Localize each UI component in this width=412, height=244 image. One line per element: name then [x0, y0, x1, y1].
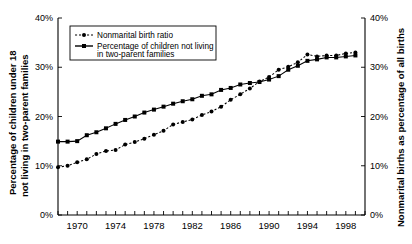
- data-point: [181, 99, 185, 103]
- data-point: [305, 59, 309, 63]
- data-point: [133, 140, 137, 144]
- right-tick-label: 30%: [370, 62, 388, 72]
- legend-label-0: Nonmarital birth ratio: [97, 31, 173, 40]
- data-point: [85, 133, 89, 137]
- data-point: [152, 133, 156, 137]
- data-point: [56, 165, 60, 169]
- data-point: [162, 105, 166, 109]
- data-point: [56, 140, 60, 144]
- data-point: [315, 57, 319, 61]
- data-point: [238, 82, 242, 86]
- right-tick-label: 10%: [370, 161, 388, 171]
- x-axis-ticks: 19701974197819821986199019941998: [58, 211, 365, 231]
- series-line-1: [58, 55, 355, 141]
- data-point: [66, 164, 70, 168]
- data-point: [267, 78, 271, 82]
- left-tick-label: 20%: [35, 112, 53, 122]
- right-tick-label: 40%: [370, 13, 388, 23]
- data-point: [305, 52, 309, 56]
- data-point: [104, 149, 108, 153]
- left-tick-label: 10%: [35, 161, 53, 171]
- data-point: [85, 157, 89, 161]
- data-point: [219, 105, 223, 109]
- series-line-0: [58, 52, 355, 167]
- x-tick-label: 1970: [67, 220, 88, 231]
- data-point: [257, 80, 261, 84]
- data-point: [200, 94, 204, 98]
- data-point: [114, 148, 118, 152]
- data-point: [248, 81, 252, 85]
- data-point: [181, 120, 185, 124]
- data-point: [248, 86, 252, 90]
- x-tick-label: 1994: [297, 220, 318, 231]
- data-point: [94, 152, 98, 156]
- data-point: [190, 117, 194, 121]
- data-point: [75, 139, 79, 143]
- line-chart: Percentage of children under 18 not livi…: [0, 0, 412, 244]
- left-axis-title-line1: Percentage of children under 18: [7, 50, 18, 195]
- data-point: [200, 113, 204, 117]
- x-tick-label: 1990: [258, 220, 279, 231]
- data-point: [133, 115, 137, 119]
- series-layer: [56, 50, 357, 169]
- data-point: [286, 68, 290, 72]
- left-axis-title-line2: not living in two-parent families: [19, 54, 30, 197]
- data-point: [171, 102, 175, 106]
- x-tick-label: 1974: [105, 220, 126, 231]
- data-point: [94, 130, 98, 134]
- data-point: [190, 97, 194, 101]
- data-point: [344, 54, 348, 58]
- data-point: [66, 140, 70, 144]
- x-tick-label: 1998: [335, 220, 356, 231]
- data-point: [152, 108, 156, 112]
- left-tick-label: 40%: [35, 13, 53, 23]
- chart-container: Percentage of children under 18 not livi…: [0, 0, 412, 244]
- chart-legend: Nonmarital birth ratioPercentage of chil…: [70, 26, 216, 60]
- right-axis-title: Nonmarital births as percentage of all b…: [395, 28, 406, 227]
- data-point: [334, 55, 338, 59]
- right-tick-label: 20%: [370, 112, 388, 122]
- data-point: [277, 68, 281, 72]
- data-point: [210, 110, 214, 114]
- left-tick-label: 30%: [35, 62, 53, 72]
- data-point: [296, 60, 300, 64]
- legend-label-2: in two-parent families: [97, 50, 174, 59]
- data-point: [171, 122, 175, 126]
- data-point: [296, 64, 300, 68]
- data-point: [238, 92, 242, 96]
- data-point: [114, 122, 118, 126]
- data-point: [325, 55, 329, 59]
- data-point: [162, 129, 166, 133]
- data-point: [277, 74, 281, 78]
- data-point: [104, 126, 108, 130]
- data-point: [123, 118, 127, 122]
- right-tick-label: 0%: [370, 210, 383, 220]
- data-point: [75, 160, 79, 164]
- data-point: [353, 53, 357, 57]
- data-point: [142, 137, 146, 141]
- x-tick-label: 1982: [182, 220, 203, 231]
- data-point: [219, 88, 223, 92]
- data-point: [229, 86, 233, 90]
- data-point: [210, 92, 214, 96]
- data-point: [142, 111, 146, 115]
- data-point: [229, 98, 233, 102]
- x-tick-label: 1986: [220, 220, 241, 231]
- data-point: [123, 143, 127, 147]
- left-tick-label: 0%: [40, 210, 53, 220]
- x-tick-label: 1978: [143, 220, 164, 231]
